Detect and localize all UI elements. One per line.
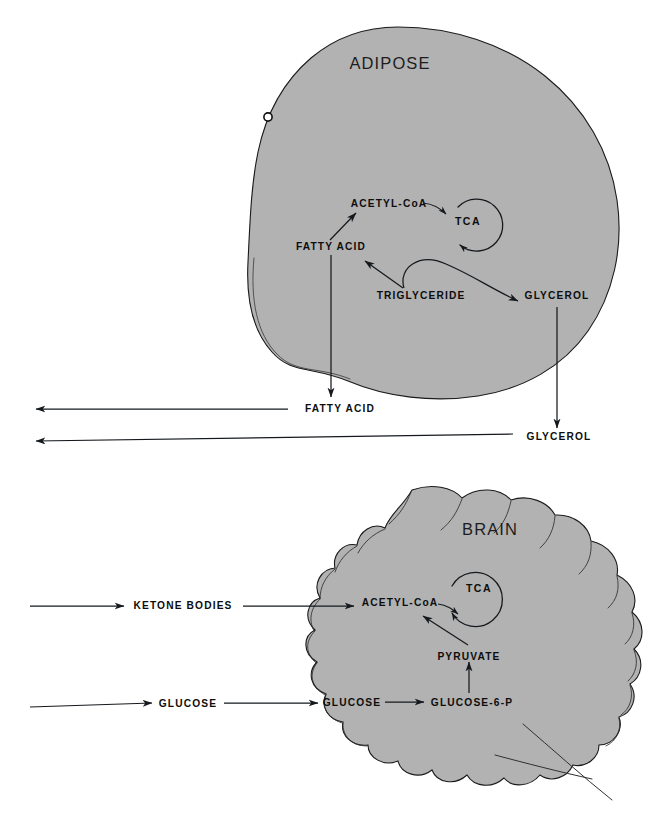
adipose-title: ADIPOSE bbox=[349, 54, 430, 72]
adipose-tca-label: TCA bbox=[455, 215, 481, 227]
adipose-label-fatty-acid: FATTY ACID bbox=[296, 241, 366, 252]
brain-title: BRAIN bbox=[462, 520, 518, 538]
adipose-label-triglyceride: TRIGLYCERIDE bbox=[377, 290, 466, 301]
brain-label-acetyl-coa: ACETYL-CoA bbox=[362, 597, 439, 608]
brain-label-ketone-bodies-ext: KETONE BODIES bbox=[133, 600, 232, 611]
adipose-label-acetyl-coa: ACETYL-CoA bbox=[351, 198, 428, 209]
diagram-canvas: ADIPOSE TCA ACETYL-CoA FATTY ACID TRIGLY… bbox=[0, 0, 658, 835]
adipose-label-fatty-acid-out: FATTY ACID bbox=[305, 403, 375, 414]
adipose-label-glycerol: GLYCEROL bbox=[525, 290, 590, 301]
adipose-label-glycerol-out: GLYCEROL bbox=[527, 431, 592, 442]
metabolism-figure: ADIPOSE TCA ACETYL-CoA FATTY ACID TRIGLY… bbox=[0, 0, 658, 835]
brain-tca-label: TCA bbox=[466, 582, 492, 594]
brain-label-glucose-6-p: GLUCOSE-6-P bbox=[431, 697, 513, 708]
brain-label-glucose-internal: GLUCOSE bbox=[323, 697, 381, 708]
brain-label-glucose-ext: GLUCOSE bbox=[159, 698, 217, 709]
brain-label-pyruvate: PYRUVATE bbox=[437, 651, 500, 662]
adipose-nucleus-icon bbox=[264, 113, 272, 121]
